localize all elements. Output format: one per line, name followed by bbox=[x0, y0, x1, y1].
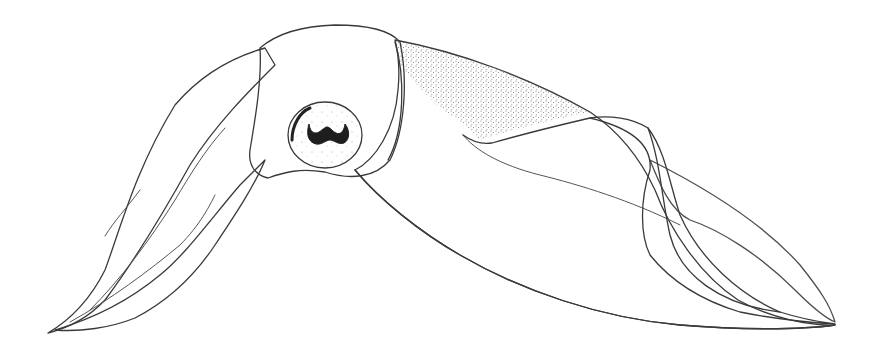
illustration-canvas: Stippled pen-and-ink illustration of a s… bbox=[0, 0, 887, 357]
mantle bbox=[355, 40, 835, 329]
arms bbox=[48, 48, 275, 333]
fin bbox=[590, 117, 835, 324]
eye bbox=[288, 102, 362, 168]
squid-illustration bbox=[0, 0, 887, 357]
